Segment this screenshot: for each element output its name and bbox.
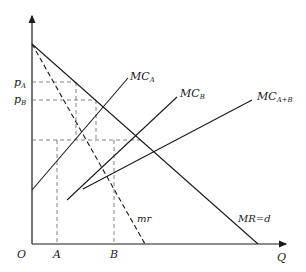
- y-tick-pa: pA: [14, 76, 26, 90]
- y-tick-pb: pB: [14, 93, 26, 107]
- mr-curve: [32, 44, 145, 244]
- x-axis-label: Q: [277, 251, 286, 264]
- mc-a-label: MCA: [129, 70, 155, 84]
- mc-b-label: MCB: [179, 87, 205, 101]
- diagram-canvas: pA pB MCA MCB MCA+B mr MR=d O A B Q: [0, 0, 306, 272]
- demand-label: MR=d: [237, 213, 271, 224]
- origin-label: O: [17, 248, 26, 261]
- mc-ab-label: MCA+B: [256, 90, 293, 104]
- x-tick-b: B: [109, 248, 118, 261]
- mr-label: mr: [137, 213, 152, 224]
- mc-ab-curve: [83, 100, 252, 189]
- x-tick-a: A: [52, 248, 61, 261]
